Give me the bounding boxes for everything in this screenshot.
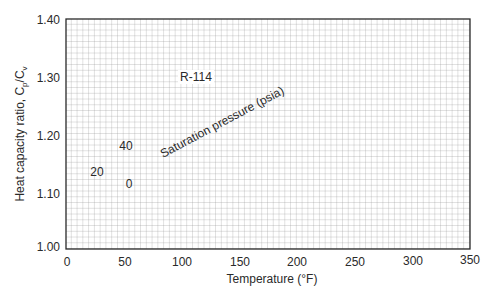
x-tick: 0 [64, 255, 71, 269]
x-tick: 250 [345, 255, 365, 269]
pressure-label-20: 20 [90, 165, 104, 179]
grid [66, 19, 470, 249]
y-tick: 1.10 [37, 187, 61, 201]
x-axis-label: Temperature (°F) [227, 272, 318, 286]
y-tick: 1.00 [37, 240, 61, 254]
pressure-label-0: 0 [126, 177, 133, 191]
y-tick: 1.30 [37, 71, 61, 85]
x-tick: 350 [460, 253, 480, 267]
x-tick: 200 [287, 255, 307, 269]
plot-area [66, 19, 470, 249]
x-axis: 0 50 100 150 200 250 300 350 Temperature… [64, 253, 481, 286]
y-tick: 1.20 [37, 129, 61, 143]
x-tick: 50 [118, 255, 132, 269]
substance-label: R-114 [180, 70, 212, 84]
chart: 1.40 1.30 1.20 1.10 1.00 Heat capacity r… [0, 0, 494, 300]
x-tick: 300 [403, 254, 423, 268]
x-tick: 150 [230, 255, 250, 269]
x-tick: 100 [172, 255, 192, 269]
pressure-label-40: 40 [119, 139, 133, 153]
y-axis: 1.40 1.30 1.20 1.10 1.00 Heat capacity r… [13, 13, 60, 254]
y-tick: 1.40 [37, 13, 61, 27]
y-axis-label: Heat capacity ratio, Cp/Cv [13, 66, 29, 201]
